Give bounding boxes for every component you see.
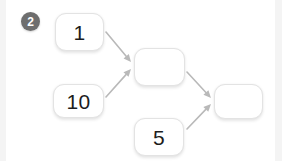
arrow-1-to-middle-arrowhead [124,54,131,62]
node-box-result[interactable] [214,84,263,119]
arrow-1-to-middle-line [106,32,126,56]
arrow-middle-to-result-arrowhead [203,90,211,98]
arrow-10-to-middle-line [106,75,126,97]
node-box-5[interactable]: 5 [134,118,184,156]
arrow-1-to-middle [106,32,131,62]
arrow-5-to-result-line [187,109,206,129]
arrow-10-to-middle-arrowhead [123,69,131,77]
arrow-10-to-middle [106,69,131,97]
arrow-5-to-result [187,104,211,129]
step-badge: 2 [21,12,40,31]
left-gutter [0,0,6,161]
node-box-middle[interactable] [134,48,185,86]
node-box-10[interactable]: 10 [53,84,104,118]
diagram-canvas: 2 1105 [0,0,282,161]
right-gutter [275,0,282,161]
arrow-5-to-result-arrowhead [203,104,211,112]
arrow-middle-to-result-line [187,72,206,92]
arrow-middle-to-result [187,72,211,98]
node-box-1[interactable]: 1 [55,13,104,51]
